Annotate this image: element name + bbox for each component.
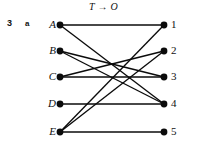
graph-edge [60, 25, 164, 132]
graph-node-5[interactable] [161, 129, 168, 136]
graph-node-d[interactable] [57, 101, 64, 108]
graph-node-b[interactable] [57, 48, 64, 55]
node-label-d: D [44, 98, 56, 109]
node-label-4: 4 [171, 98, 183, 109]
graph-node-a[interactable] [57, 22, 64, 29]
node-label-e: E [44, 126, 56, 137]
graph-node-3[interactable] [161, 74, 168, 81]
exercise-number: 3 [7, 18, 12, 28]
graph-node-e[interactable] [57, 129, 64, 136]
node-label-a: A [44, 19, 56, 30]
figure-title: T → O [0, 1, 207, 12]
bipartite-graph-figure: 3 a T → O ABCDE12345 [0, 0, 207, 149]
node-label-b: B [44, 45, 56, 56]
graph-node-1[interactable] [161, 22, 168, 29]
node-label-3: 3 [171, 71, 183, 82]
graph-node-2[interactable] [161, 48, 168, 55]
node-label-1: 1 [171, 19, 183, 30]
graph-node-c[interactable] [57, 74, 64, 81]
node-label-c: C [44, 71, 56, 82]
node-label-5: 5 [171, 126, 183, 137]
node-label-2: 2 [171, 45, 183, 56]
exercise-part-letter: a [25, 19, 29, 28]
graph-node-4[interactable] [161, 101, 168, 108]
edges-layer [60, 25, 164, 132]
